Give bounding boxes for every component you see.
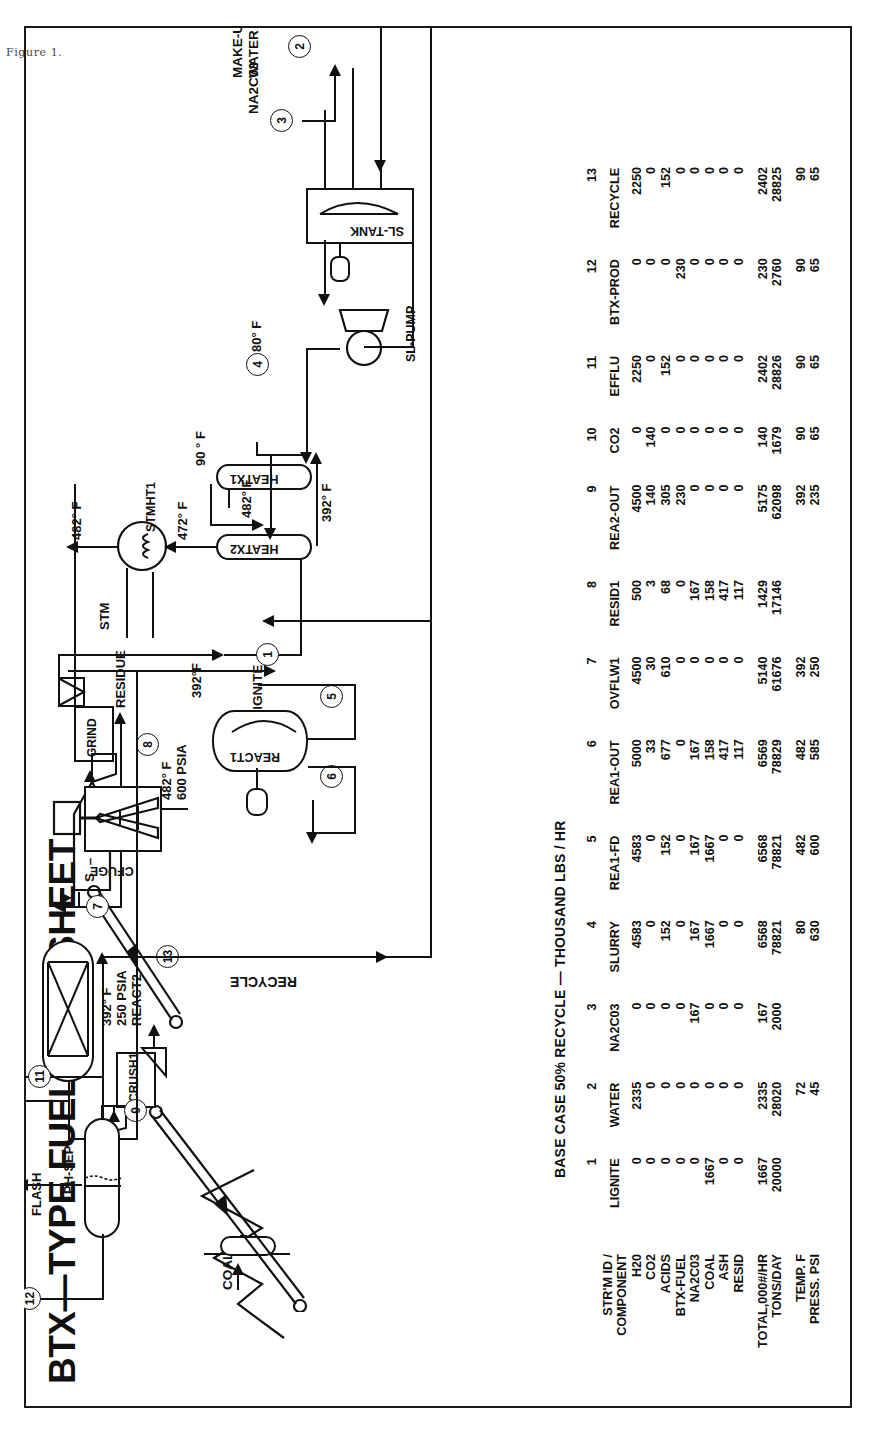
cell: 0 bbox=[674, 1002, 689, 1081]
table-row: ACIDS0001521526776106830501520152 bbox=[659, 167, 674, 1348]
stream-number-3: 3 bbox=[270, 109, 293, 132]
cell: 167 bbox=[688, 1002, 703, 1081]
cell: 0 bbox=[732, 920, 747, 1002]
cell: 0 bbox=[659, 1157, 674, 1238]
stream-number-header-11: 11 bbox=[584, 355, 601, 427]
cell: 1667 bbox=[703, 835, 718, 921]
row-label-h20: H20 bbox=[630, 1238, 645, 1348]
cell: 0 bbox=[732, 355, 747, 427]
cell-total: 5175 bbox=[756, 485, 771, 580]
cell: 0 bbox=[732, 167, 747, 258]
cell: 0 bbox=[717, 427, 732, 485]
cell-total: 5140 bbox=[756, 656, 771, 739]
cell-press: 600 bbox=[808, 835, 823, 921]
cell: 0 bbox=[688, 1157, 703, 1238]
cell: 0 bbox=[703, 427, 718, 485]
cell-press: 235 bbox=[808, 485, 823, 580]
cell: 0 bbox=[630, 1157, 645, 1238]
table-row-temp: TEMP. F728048248239239290909090 bbox=[794, 167, 809, 1348]
cell: 0 bbox=[717, 258, 732, 355]
makeup-water-label: MAKE-UPWATER bbox=[230, 26, 261, 78]
cell: 0 bbox=[674, 656, 689, 739]
cell: 0 bbox=[630, 427, 645, 485]
cell: 2250 bbox=[630, 355, 645, 427]
cell: 117 bbox=[732, 739, 747, 834]
row-label-na2c03: NA2C03 bbox=[688, 1238, 703, 1348]
cell: 68 bbox=[659, 580, 674, 657]
cell-tons: 78821 bbox=[770, 920, 785, 1002]
cell: 158 bbox=[703, 580, 718, 657]
cell-press: 250 bbox=[808, 656, 823, 739]
cell-press: 65 bbox=[808, 258, 823, 355]
lignite-temp-label: 392°F bbox=[190, 663, 205, 698]
stream-number-header-12: 12 bbox=[584, 258, 601, 355]
cell: 4500 bbox=[630, 656, 645, 739]
flash-label: FLASH bbox=[30, 1173, 45, 1216]
cell: 0 bbox=[717, 656, 732, 739]
cell: 167 bbox=[688, 739, 703, 834]
stream-number-header-13: 13 bbox=[584, 167, 601, 258]
cell: 0 bbox=[688, 258, 703, 355]
stream-name-header-8: RESID1 bbox=[601, 580, 630, 657]
table-corner-label: STR'M ID /COMPONENT bbox=[601, 1238, 630, 1348]
cell-total: 6569 bbox=[756, 739, 771, 834]
row-label-acids: ACIDS bbox=[659, 1238, 674, 1348]
cell: 0 bbox=[717, 167, 732, 258]
cell: 0 bbox=[644, 920, 659, 1002]
cell: 140 bbox=[644, 427, 659, 485]
slurry-tank-label: SL-TANK bbox=[350, 224, 404, 238]
cell: 0 bbox=[717, 485, 732, 580]
cell: 0 bbox=[674, 1082, 689, 1158]
cell-temp: 482 bbox=[794, 835, 809, 921]
table-corner-blank bbox=[584, 1238, 601, 1348]
recycle-label: RECYCLE bbox=[230, 974, 297, 990]
cell-temp: 72 bbox=[794, 1082, 809, 1158]
cell: 0 bbox=[732, 1082, 747, 1158]
residue-label: RESIDUE bbox=[114, 650, 129, 708]
cell-press: 65 bbox=[808, 355, 823, 427]
steam-inlet-label: STM bbox=[98, 603, 113, 630]
stream-name-header-13: RECYCLE bbox=[601, 167, 630, 258]
cell: 30 bbox=[644, 656, 659, 739]
cell: 610 bbox=[659, 656, 674, 739]
cell-tons: 78821 bbox=[770, 835, 785, 921]
cell: 167 bbox=[688, 580, 703, 657]
reactor2-packing bbox=[42, 938, 96, 1082]
cell-press bbox=[808, 1157, 823, 1238]
stream-number-header-9: 9 bbox=[584, 485, 601, 580]
table-row-press: PRESS. PSI4563060058525023565656565 bbox=[808, 167, 823, 1348]
phase-separator-internals bbox=[84, 1116, 122, 1238]
stream-number-header-1: 1 bbox=[584, 1157, 601, 1238]
table-row: NA2C0300167167167167016700000 bbox=[688, 167, 703, 1348]
cell: 0 bbox=[688, 427, 703, 485]
cell: 0 bbox=[703, 656, 718, 739]
cell: 0 bbox=[659, 258, 674, 355]
stream-number-header-2: 2 bbox=[584, 1082, 601, 1158]
row-label-total: TOTAL,000#/HR bbox=[756, 1238, 771, 1348]
stream-name-header-7: OVFLW1 bbox=[601, 656, 630, 739]
cell: 230 bbox=[674, 485, 689, 580]
stream-number-6: 6 bbox=[320, 765, 343, 788]
row-label-ash: ASH bbox=[717, 1238, 732, 1348]
cell: 0 bbox=[703, 1082, 718, 1158]
stream-name-header-2: WATER bbox=[601, 1082, 630, 1158]
cell-total: 2402 bbox=[756, 167, 771, 258]
stream-number-1: 1 bbox=[256, 643, 279, 666]
stream-number-2: 2 bbox=[288, 35, 311, 58]
cell: 0 bbox=[674, 1157, 689, 1238]
heatx1-inlet-temp: 80° F bbox=[250, 321, 265, 352]
row-label-press: PRESS. PSI bbox=[808, 1238, 823, 1348]
cell-tons: 28825 bbox=[770, 167, 785, 258]
cell: 0 bbox=[717, 835, 732, 921]
cell: 0 bbox=[703, 355, 718, 427]
row-label-temp: TEMP. F bbox=[794, 1238, 809, 1348]
cell: 152 bbox=[659, 835, 674, 921]
cell: 4500 bbox=[630, 485, 645, 580]
cell-total: 2335 bbox=[756, 1082, 771, 1158]
cell: 0 bbox=[659, 427, 674, 485]
cell-tons: 1679 bbox=[770, 427, 785, 485]
table-row: H200233504583458350004500500450002250022… bbox=[630, 167, 645, 1348]
stream-number-header-8: 8 bbox=[584, 580, 601, 657]
cell: 0 bbox=[674, 167, 689, 258]
cell-total: 1667 bbox=[756, 1157, 771, 1238]
